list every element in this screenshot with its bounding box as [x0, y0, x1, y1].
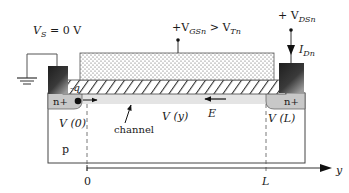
drain-contact	[279, 63, 304, 93]
drain-terminal	[289, 28, 293, 32]
charge-label: -q	[70, 82, 80, 93]
channel-label: channel	[114, 124, 154, 135]
drain-nplus-label: n+	[284, 96, 299, 107]
gate-terminal	[176, 38, 180, 42]
substrate-label: p	[62, 143, 69, 156]
nmos-cross-section-diagram: VS = 0 V +VGSn > VTn + VDSn IDn -q n+ n+…	[0, 0, 349, 193]
gate-electrode	[80, 53, 274, 80]
axis-L-label: L	[261, 175, 269, 188]
drain-voltage-label: + VDSn	[278, 9, 316, 24]
field-label: E	[207, 107, 216, 120]
vy-label: V (y)	[162, 110, 188, 123]
current-arrow-icon	[287, 45, 295, 55]
gate-oxide	[63, 80, 286, 94]
electron-icon	[75, 98, 82, 105]
gate-voltage-label: +VGSn > VTn	[172, 21, 241, 36]
vl-label: V (L)	[268, 112, 295, 125]
axis-y-label: y	[335, 164, 343, 177]
source-nplus-label: n+	[53, 96, 68, 107]
v0-label: V (0)	[59, 117, 86, 130]
axis-origin-label: 0	[84, 175, 91, 188]
channel-region	[82, 94, 266, 104]
y-axis-arrow-icon	[320, 164, 332, 172]
source-voltage-label: VS = 0 V	[33, 24, 82, 39]
drain-current-label: IDn	[298, 43, 315, 58]
source-contact	[48, 66, 68, 94]
